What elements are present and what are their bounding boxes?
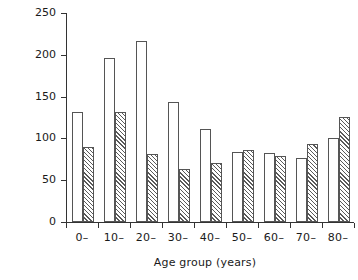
bar	[275, 156, 286, 222]
y-tick-label: 250	[26, 6, 56, 19]
x-axis-title: Age group (years)	[60, 256, 350, 269]
x-tick-mark	[226, 223, 227, 228]
x-tick-mark	[130, 223, 131, 228]
x-tick-label: 80–	[318, 231, 358, 244]
bar	[264, 153, 275, 222]
bar	[115, 112, 126, 222]
x-tick-mark	[290, 223, 291, 228]
bar	[179, 169, 190, 223]
chart-figure: Incidence rate per 1000 Age group (years…	[0, 0, 358, 280]
bar	[243, 150, 254, 222]
bar	[211, 163, 222, 222]
x-tick-mark	[354, 223, 355, 228]
bar	[328, 138, 339, 222]
bar	[136, 41, 147, 222]
x-tick-mark	[322, 223, 323, 228]
bar	[307, 144, 318, 222]
x-axis-line	[66, 222, 354, 223]
bar	[339, 117, 350, 222]
bar	[296, 158, 307, 222]
x-tick-mark	[194, 223, 195, 228]
y-tick-label: 50	[26, 173, 56, 186]
x-tick-mark	[98, 223, 99, 228]
x-tick-mark	[162, 223, 163, 228]
y-tick-label: 200	[26, 48, 56, 61]
bars-layer	[66, 13, 354, 222]
y-tick-label: 100	[26, 131, 56, 144]
bar	[104, 58, 115, 222]
y-tick-label: 150	[26, 90, 56, 103]
bar	[200, 129, 211, 222]
bar	[232, 152, 243, 222]
bar	[83, 147, 94, 222]
bar	[72, 112, 83, 222]
x-tick-mark	[66, 223, 67, 228]
y-tick-label: 0	[26, 215, 56, 228]
bar	[147, 154, 158, 222]
x-tick-mark	[258, 223, 259, 228]
bar	[168, 102, 179, 222]
